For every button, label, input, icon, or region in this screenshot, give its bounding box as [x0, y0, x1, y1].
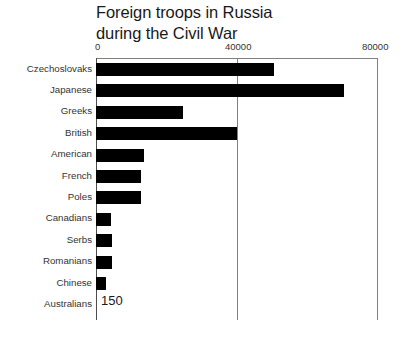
category-label-row: American — [0, 144, 92, 165]
category-label: American — [51, 148, 92, 160]
category-label-row: Canadians — [0, 208, 92, 229]
category-label: French — [62, 170, 92, 182]
category-label: Greeks — [61, 105, 92, 117]
bar — [96, 277, 106, 290]
category-label: Serbs — [67, 234, 92, 246]
category-label: Czechoslovaks — [27, 63, 92, 75]
bar — [96, 84, 344, 97]
category-label-row: Poles — [0, 186, 92, 207]
category-label-row: Japanese — [0, 79, 92, 100]
category-label-row: Romanians — [0, 251, 92, 272]
bar-row — [96, 58, 378, 79]
category-label-row: Czechoslovaks — [0, 58, 92, 79]
bar-row: 150 — [96, 293, 378, 314]
bar-chart: Foreign troops in Russia during the Civi… — [0, 0, 409, 339]
category-label: British — [65, 127, 92, 139]
bar-row — [96, 272, 378, 293]
bar — [96, 127, 237, 140]
category-label: Chinese — [56, 277, 92, 289]
bar-row — [96, 79, 378, 100]
bar — [96, 213, 111, 226]
category-label-row: Greeks — [0, 101, 92, 122]
x-tick-label-0: 0 — [95, 41, 100, 52]
bar-row — [96, 186, 378, 207]
category-label-row: Australians — [0, 293, 92, 314]
bar — [96, 256, 112, 269]
bar — [96, 63, 274, 76]
category-label: Poles — [68, 191, 92, 203]
bar-row — [96, 229, 378, 250]
x-tick-label-80000: 80000 — [362, 41, 388, 52]
category-label-row: Serbs — [0, 229, 92, 250]
category-label: Australians — [44, 298, 92, 310]
category-label-row: British — [0, 122, 92, 143]
category-label: Romanians — [43, 255, 92, 267]
bar-row — [96, 208, 378, 229]
category-label-row: Chinese — [0, 272, 92, 293]
category-labels: CzechoslovaksJapaneseGreeksBritishAmeric… — [0, 58, 92, 320]
bar — [96, 234, 112, 247]
bar-row — [96, 101, 378, 122]
bar-row — [96, 144, 378, 165]
bars-container: 150 — [96, 58, 378, 320]
category-label: Japanese — [50, 84, 92, 96]
bar — [96, 106, 183, 119]
x-tick-label-40000: 40000 — [225, 41, 251, 52]
bar-row — [96, 165, 378, 186]
bar-row — [96, 122, 378, 143]
bar-value-label: 150 — [101, 293, 123, 308]
bar-row — [96, 251, 378, 272]
category-label-row: French — [0, 165, 92, 186]
bar — [96, 170, 141, 183]
category-label: Canadians — [46, 212, 92, 224]
bar — [96, 149, 144, 162]
bar — [96, 191, 141, 204]
chart-title: Foreign troops in Russia during the Civi… — [96, 2, 396, 44]
